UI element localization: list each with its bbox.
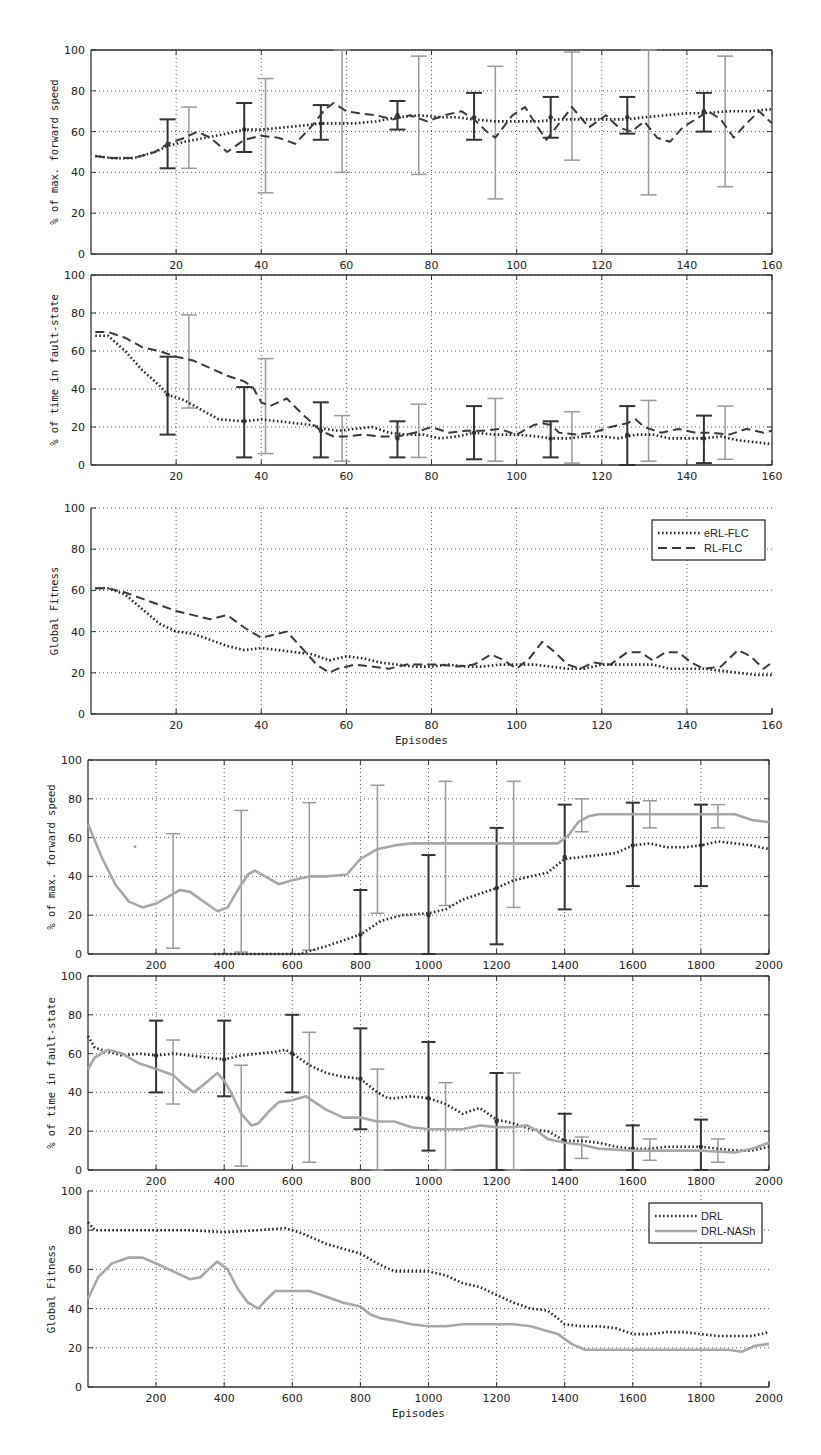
x-tick-label: 600 xyxy=(282,1392,303,1405)
error-bar xyxy=(466,93,482,140)
series-erl-flc xyxy=(95,336,772,444)
y-tick-label: 0 xyxy=(78,248,85,261)
y-tick-label: 20 xyxy=(71,207,85,220)
error-bar xyxy=(619,406,635,465)
error-bar xyxy=(487,66,503,199)
y-tick-label: 100 xyxy=(61,970,82,983)
x-tick-label: 1800 xyxy=(687,1392,715,1405)
error-bar xyxy=(334,416,350,462)
panel-p6: 0204060801002004006008001000120014001600… xyxy=(45,1185,783,1420)
error-bar xyxy=(334,50,350,172)
x-axis-label: Episodes xyxy=(392,1407,445,1420)
panel-p3: 02040608010020406080100120140160Global F… xyxy=(48,502,783,747)
error-bar xyxy=(575,799,589,832)
y-tick-label: 40 xyxy=(71,383,85,396)
x-tick-label: 40 xyxy=(254,259,268,272)
x-tick-label: 600 xyxy=(282,959,303,972)
y-tick-label: 100 xyxy=(64,44,85,57)
error-bar xyxy=(641,50,657,195)
x-tick-label: 1000 xyxy=(415,1175,443,1188)
series-rl-flc xyxy=(95,103,772,158)
panel-p5: 0204060801002004006008001000120014001600… xyxy=(45,970,783,1188)
y-axis-label: % of time in fault-state xyxy=(45,997,57,1149)
x-tick-label: 200 xyxy=(146,959,167,972)
x-tick-label: 1000 xyxy=(415,1392,443,1405)
legend: DRLDRL-NASh xyxy=(649,1203,762,1243)
y-tick-label: 40 xyxy=(68,1086,82,1099)
x-tick-label: 1600 xyxy=(619,959,647,972)
panel-p1: 02040608010020406080100120140160% of max… xyxy=(48,44,783,272)
x-tick-label: 1400 xyxy=(551,1175,579,1188)
error-bar xyxy=(717,56,733,187)
x-tick-label: 40 xyxy=(254,719,268,732)
y-tick-label: 80 xyxy=(68,793,82,806)
x-tick-label: 800 xyxy=(350,959,371,972)
grid xyxy=(91,50,772,254)
legend: eRL-FLCRL-FLC xyxy=(652,520,765,560)
x-tick-label: 800 xyxy=(350,1175,371,1188)
x-tick-label: 100 xyxy=(506,259,527,272)
x-tick-label: 60 xyxy=(339,259,353,272)
series-rl-flc xyxy=(95,332,772,437)
error-bars xyxy=(160,315,734,465)
x-tick-label: 200 xyxy=(146,1175,167,1188)
x-tick-label: 1600 xyxy=(619,1175,647,1188)
x-tick-label: 1800 xyxy=(687,1175,715,1188)
x-tick-label: 60 xyxy=(339,719,353,732)
y-tick-label: 80 xyxy=(71,543,85,556)
y-axis-label: Global Fitness xyxy=(48,567,60,656)
y-tick-label: 80 xyxy=(68,1009,82,1022)
y-tick-label: 60 xyxy=(68,1263,82,1276)
x-tick-label: 600 xyxy=(282,1175,303,1188)
tick-labels: 02040608010020406080100120140160 xyxy=(64,44,783,272)
x-tick-label: 2000 xyxy=(755,1392,783,1405)
x-tick-label: 100 xyxy=(506,470,527,483)
legend-label: DRL-NASh xyxy=(701,1225,755,1237)
x-tick-label: 1200 xyxy=(483,1392,511,1405)
error-bar xyxy=(564,52,580,160)
series-erl-flc xyxy=(95,588,772,675)
axes-frame xyxy=(91,50,772,254)
error-bar xyxy=(285,1015,299,1093)
error-bar xyxy=(619,97,635,134)
x-tick-label: 80 xyxy=(425,259,439,272)
panel-p2: 02040608010020406080100120140160% of tim… xyxy=(48,269,783,483)
y-tick-label: 20 xyxy=(71,667,85,680)
x-tick-label: 20 xyxy=(169,719,183,732)
annotation-dot: • xyxy=(132,842,137,852)
series-rl-flc xyxy=(95,588,772,673)
x-tick-label: 160 xyxy=(762,719,783,732)
x-tick-label: 140 xyxy=(676,470,697,483)
panel-p4: 0204060801002004006008001000120014001600… xyxy=(45,754,783,972)
legend-label: DRL xyxy=(701,1210,723,1222)
y-tick-label: 60 xyxy=(71,126,85,139)
x-tick-label: 1000 xyxy=(415,959,443,972)
x-tick-label: 1200 xyxy=(483,1175,511,1188)
x-tick-label: 1400 xyxy=(551,959,579,972)
legend-label: eRL-FLC xyxy=(704,527,749,539)
y-axis-label: % of time in fault-state xyxy=(48,294,60,446)
y-tick-label: 100 xyxy=(64,269,85,282)
y-tick-label: 20 xyxy=(68,1125,82,1138)
y-tick-label: 60 xyxy=(68,832,82,845)
y-tick-label: 60 xyxy=(68,1048,82,1061)
error-bar xyxy=(353,890,367,954)
error-bar xyxy=(711,805,725,828)
x-tick-label: 140 xyxy=(676,259,697,272)
y-tick-label: 40 xyxy=(68,1303,82,1316)
tick-labels: 0204060801002004006008001000120014001600… xyxy=(61,970,783,1188)
error-bar xyxy=(558,805,572,910)
x-tick-label: 2000 xyxy=(755,959,783,972)
y-tick-label: 0 xyxy=(78,459,85,472)
x-tick-label: 1400 xyxy=(551,1392,579,1405)
series-erl-flc xyxy=(95,109,772,158)
x-tick-label: 120 xyxy=(591,719,612,732)
x-tick-label: 160 xyxy=(762,470,783,483)
y-tick-label: 20 xyxy=(68,1342,82,1355)
x-tick-label: 1600 xyxy=(619,1392,647,1405)
error-bars xyxy=(166,781,725,954)
tick-labels: 02040608010020406080100120140160 xyxy=(64,269,783,483)
error-bar xyxy=(422,1042,436,1151)
x-tick-label: 140 xyxy=(676,719,697,732)
y-tick-label: 60 xyxy=(71,584,85,597)
